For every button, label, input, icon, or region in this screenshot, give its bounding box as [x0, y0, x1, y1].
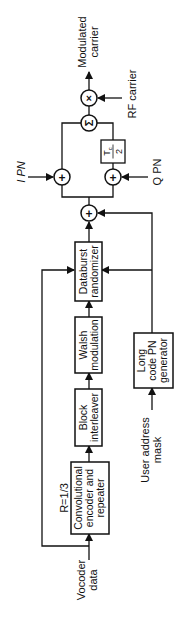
conv-rate-label: R=1/3	[58, 483, 70, 513]
databurst-randomizer-block: Databurst randomizer	[75, 242, 102, 301]
modulated-carrier-label: Modulated carrier	[76, 16, 100, 67]
long-code-pn-generator-block: Long code PN generator	[134, 333, 173, 388]
user-address-mask-label: User address mask	[139, 417, 163, 483]
svg-text:×: ×	[86, 93, 92, 104]
svg-text:mask: mask	[151, 436, 163, 463]
svg-text:RF carrier: RF carrier	[126, 69, 138, 118]
q-pn-adder: +	[105, 169, 121, 185]
block-interleaver-block: Block interleaver	[75, 389, 102, 446]
svg-text:2: 2	[114, 149, 124, 154]
svg-text:carrier: carrier	[88, 26, 100, 58]
rf-carrier-label: RF carrier	[126, 69, 138, 118]
walsh-modulation-block: Walsh modulation	[75, 317, 102, 373]
i-pn-label: I PN	[15, 161, 27, 182]
svg-text:Modulated: Modulated	[76, 16, 88, 67]
svg-text:generator: generator	[157, 338, 169, 383]
svg-text:randomizer: randomizer	[88, 245, 100, 298]
half-chip-delay-block: Tc 2	[101, 140, 125, 163]
svg-text:+: +	[109, 171, 116, 185]
svg-text:R=1/3: R=1/3	[58, 483, 70, 513]
q-pn-label: Q PN	[151, 159, 163, 186]
svg-text:interleaver: interleaver	[88, 392, 100, 442]
svg-text:Vocoder: Vocoder	[75, 559, 87, 600]
svg-text:Q PN: Q PN	[151, 159, 163, 186]
vocoder-data-label: Vocoder data	[75, 559, 99, 600]
long-code-adder: +	[81, 205, 97, 221]
svg-text:data: data	[87, 568, 99, 590]
i-pn-adder: +	[54, 169, 70, 185]
multiplier-node: ×	[81, 90, 97, 106]
svg-text:+: +	[85, 207, 92, 221]
svg-text:repeater: repeater	[94, 478, 106, 518]
svg-text:I PN: I PN	[15, 161, 27, 182]
cdma-transmitter-diagram: × Σ + + + Tc 2 Databurst randomizer	[0, 0, 187, 621]
summer-node: Σ	[81, 115, 97, 131]
svg-text:+: +	[58, 171, 65, 185]
convolutional-encoder-block: Convolutional encoder and repeater	[71, 462, 109, 534]
svg-text:User address: User address	[139, 417, 151, 483]
svg-text:modulation: modulation	[88, 319, 100, 371]
svg-text:Σ: Σ	[83, 119, 95, 126]
